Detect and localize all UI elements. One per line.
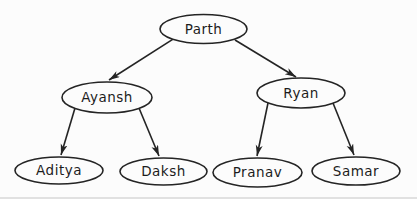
diagram-canvas: ParthAyanshRyanAdityaDakshPranavSamar <box>0 0 417 199</box>
node-ryan: Ryan <box>257 78 345 108</box>
edge-ayansh-to-aditya <box>61 108 75 155</box>
edge-parth-to-ayansh <box>109 39 173 80</box>
nodes-layer: ParthAyanshRyanAdityaDakshPranavSamar <box>15 15 400 188</box>
node-ayansh: Ayansh <box>62 82 152 113</box>
edge-parth-to-ryan <box>235 40 296 77</box>
pranav-label: Pranav <box>233 164 283 180</box>
edge-ryan-to-samar <box>333 103 354 155</box>
edge-ayansh-to-daksh <box>139 108 159 156</box>
edge-ryan-to-pranav <box>257 103 268 156</box>
node-daksh: Daksh <box>120 158 207 185</box>
node-parth: Parth <box>160 15 247 44</box>
daksh-label: Daksh <box>141 163 186 179</box>
node-samar: Samar <box>312 157 400 185</box>
samar-label: Samar <box>333 163 379 179</box>
ayansh-label: Ayansh <box>81 89 133 105</box>
scan-edge-artifact <box>0 197 417 199</box>
parth-label: Parth <box>185 21 223 37</box>
ryan-label: Ryan <box>283 85 318 101</box>
node-pranav: Pranav <box>213 158 302 187</box>
aditya-label: Aditya <box>36 162 82 178</box>
node-aditya: Aditya <box>15 157 103 184</box>
tree-diagram: ParthAyanshRyanAdityaDakshPranavSamar <box>0 0 417 199</box>
